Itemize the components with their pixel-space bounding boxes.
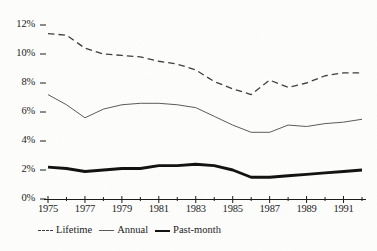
x-axis-label-1983: 1983	[179, 203, 213, 214]
chart-legend: Lifetime Annual Past-month	[38, 224, 221, 235]
x-axis-label-1989: 1989	[290, 203, 324, 214]
y-axis-label-12: 12%	[5, 18, 35, 29]
line-chart-figure: 0%2%4%6%8%10%12% 19751977197919811983198…	[0, 0, 377, 251]
legend-line-dashed-icon	[38, 226, 53, 233]
legend-item-lifetime: Lifetime	[38, 224, 92, 235]
x-axis-label-1979: 1979	[105, 203, 139, 214]
y-axis-label-2: 2%	[5, 163, 35, 174]
legend-item-past-month: Past-month	[155, 224, 221, 235]
y-axis-label-0: 0%	[5, 192, 35, 203]
x-axis-label-1991: 1991	[327, 203, 361, 214]
series-line-past-month	[48, 164, 362, 177]
y-axis-label-6: 6%	[5, 105, 35, 116]
x-axis-label-1985: 1985	[216, 203, 250, 214]
legend-label-lifetime: Lifetime	[56, 224, 92, 235]
y-axis-label-10: 10%	[5, 47, 35, 58]
y-axis-ticks	[40, 25, 46, 199]
y-axis-label-4: 4%	[5, 134, 35, 145]
x-axis-label-1987: 1987	[253, 203, 287, 214]
legend-line-thick-icon	[155, 226, 170, 233]
series-line-lifetime	[48, 34, 362, 95]
series-line-annual	[48, 95, 362, 133]
x-axis-label-1981: 1981	[142, 203, 176, 214]
x-axis-label-1977: 1977	[68, 203, 102, 214]
x-axis-label-1975: 1975	[31, 203, 65, 214]
data-series-group	[48, 34, 362, 178]
legend-item-annual: Annual	[99, 224, 148, 235]
legend-label-past-month: Past-month	[173, 224, 221, 235]
legend-label-annual: Annual	[117, 224, 148, 235]
legend-line-thin-icon	[99, 226, 114, 233]
y-axis-label-8: 8%	[5, 76, 35, 87]
